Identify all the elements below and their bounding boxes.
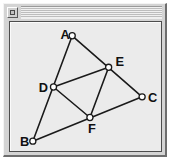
title-bar-stripes xyxy=(21,6,162,19)
title-bar[interactable] xyxy=(6,6,163,19)
figure-label-E: E xyxy=(116,54,125,69)
figure-vertex-C[interactable] xyxy=(139,94,145,100)
figure-vertex-D[interactable] xyxy=(50,84,56,90)
figure-edge-F-D xyxy=(53,87,89,118)
figure-vertex-B[interactable] xyxy=(30,138,36,144)
figure-vertex-E[interactable] xyxy=(106,64,112,70)
figure-edge-E-F xyxy=(90,67,109,117)
figure-edge-D-E xyxy=(53,67,108,87)
figure-label-D: D xyxy=(39,80,48,95)
medial-triangle-diagram: ABCDEF xyxy=(10,22,161,151)
figure-canvas: ABCDEF xyxy=(9,21,162,152)
figure-label-C: C xyxy=(148,90,157,105)
window-menu-icon[interactable] xyxy=(7,7,18,18)
figure-label-B: B xyxy=(20,134,29,149)
figure-vertex-A[interactable] xyxy=(69,33,75,39)
figure-vertex-F[interactable] xyxy=(87,114,93,120)
label-layer: ABCDEF xyxy=(20,27,157,149)
figure-label-A: A xyxy=(60,27,69,42)
app-window: ABCDEF xyxy=(3,3,167,157)
figure-label-F: F xyxy=(88,121,96,136)
